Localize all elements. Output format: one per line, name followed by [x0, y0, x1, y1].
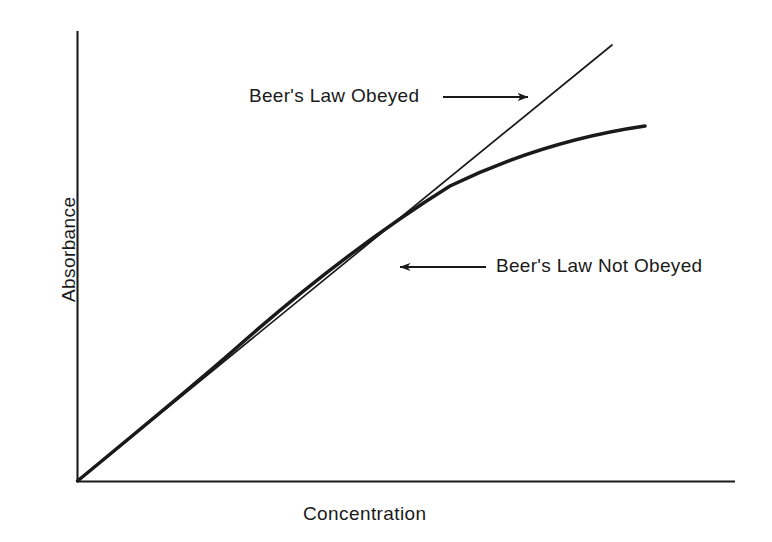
y-axis-label: Absorbance — [58, 197, 80, 302]
annotation-label-beers-law-obeyed: Beer's Law Obeyed — [249, 85, 419, 107]
beers-law-figure: Absorbance Concentration Beer's Law Obey… — [0, 0, 772, 542]
x-axis-label: Concentration — [303, 503, 427, 525]
annotation-label-beers-law-not-obeyed: Beer's Law Not Obeyed — [496, 255, 702, 277]
series-beers-law-not-obeyed — [78, 126, 646, 481]
